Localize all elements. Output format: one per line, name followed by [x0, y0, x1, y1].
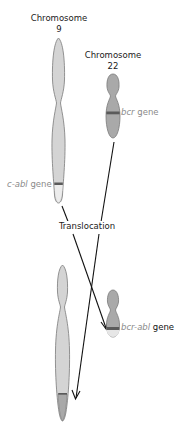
chromosome-9-normal [52, 38, 65, 203]
arrow-bcr-to-chr9 [76, 234, 99, 398]
chromosome-9-derivative [55, 265, 69, 421]
cabl-gene-name: c-abl [7, 179, 28, 189]
chromosome-22-title: Chromosome 22 [83, 50, 143, 72]
cabl-gene-label: c-abl gene [7, 179, 52, 190]
bcr-abl-band [107, 327, 120, 330]
bcr-abl-gene-label: bcr-abl gene [121, 322, 174, 333]
cabl-band [54, 183, 63, 186]
chromosome-9-title-line2: 9 [30, 24, 88, 35]
bcr-band [106, 112, 119, 115]
bcr-gene-suffix: gene [135, 107, 159, 117]
bcr-abl-gene-suffix: gene [150, 322, 174, 332]
chromosome-9-title-line1: Chromosome [30, 13, 88, 24]
chromosome-22-normal [106, 74, 120, 138]
arrow-cabl-to-fusion [73, 234, 106, 328]
bcr-gene-label: bcr gene [121, 107, 159, 118]
cabl-gene-suffix: gene [28, 179, 52, 189]
bcr-abl-gene-name: bcr-abl [121, 322, 150, 332]
chromosome-22-derivative [107, 290, 120, 337]
bcr-gene-name: bcr [121, 107, 135, 117]
chromosome-9-title: Chromosome 9 [30, 13, 88, 35]
translocation-label: Translocation [52, 221, 122, 232]
chromosome-22-title-line1: Chromosome [83, 50, 143, 61]
arrow-bcr-segment-1 [101, 142, 114, 222]
chromosome-22-title-line2: 22 [83, 61, 143, 72]
fusion-band-chr9 [58, 393, 67, 395]
translocation-text: Translocation [59, 221, 115, 231]
